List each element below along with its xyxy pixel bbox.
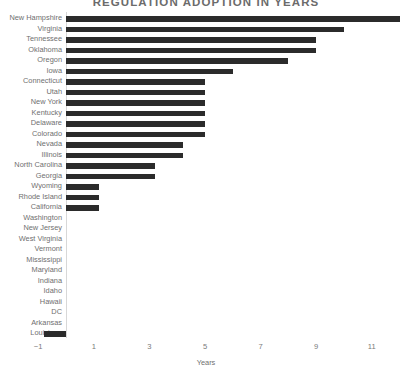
bar-category-label: Virginia bbox=[0, 24, 62, 33]
x-axis-label: Years bbox=[0, 358, 412, 367]
bar bbox=[66, 79, 205, 85]
bar-row: DC bbox=[0, 306, 412, 317]
bar-row: Virginia bbox=[0, 23, 412, 34]
bar-row: New York bbox=[0, 96, 412, 107]
bar-category-label: Hawaii bbox=[0, 297, 62, 306]
bar-category-label: Kentucky bbox=[0, 108, 62, 117]
bar bbox=[66, 27, 344, 33]
bar-category-label: Colorado bbox=[0, 129, 62, 138]
bar bbox=[66, 48, 316, 54]
bar-row: Tennessee bbox=[0, 33, 412, 44]
bar bbox=[66, 90, 205, 96]
bar-category-label: West Virginia bbox=[0, 234, 62, 243]
bar-category-label: Washington bbox=[0, 213, 62, 222]
bar-row: Mississippi bbox=[0, 254, 412, 265]
bar-row: Wyoming bbox=[0, 180, 412, 191]
bar bbox=[66, 100, 205, 106]
bar-row: Oklahoma bbox=[0, 44, 412, 55]
bar-row: Maryland bbox=[0, 264, 412, 275]
bar bbox=[66, 163, 155, 169]
bar-category-label: Indiana bbox=[0, 276, 62, 285]
bar-category-label: Iowa bbox=[0, 66, 62, 75]
bar-row: Hawaii bbox=[0, 296, 412, 307]
bar-row: Kentucky bbox=[0, 107, 412, 118]
bar-row: Louisiana bbox=[0, 327, 412, 338]
bar-category-label: Mississippi bbox=[0, 255, 62, 264]
bar-category-label: Utah bbox=[0, 87, 62, 96]
bar-category-label: Oregon bbox=[0, 55, 62, 64]
bar-category-label: Illinois bbox=[0, 150, 62, 159]
bar bbox=[66, 37, 316, 43]
bar bbox=[66, 69, 233, 75]
bar bbox=[66, 205, 99, 211]
bar bbox=[66, 111, 205, 117]
bar bbox=[66, 195, 99, 201]
bar-category-label: Oklahoma bbox=[0, 45, 62, 54]
bar-category-label: Nevada bbox=[0, 139, 62, 148]
bar-row: Georgia bbox=[0, 170, 412, 181]
bar-category-label: New York bbox=[0, 97, 62, 106]
bar bbox=[66, 142, 183, 148]
bar-row: Rhode Island bbox=[0, 191, 412, 202]
bar bbox=[66, 132, 205, 138]
bar-category-label: Delaware bbox=[0, 118, 62, 127]
bar bbox=[66, 58, 288, 64]
bar-row: Delaware bbox=[0, 117, 412, 128]
bar-category-label: Tennessee bbox=[0, 34, 62, 43]
bar-category-label: Maryland bbox=[0, 265, 62, 274]
bar-row: Arkansas bbox=[0, 317, 412, 328]
bar-category-label: Vermont bbox=[0, 244, 62, 253]
bar-row: Washington bbox=[0, 212, 412, 223]
bar bbox=[66, 184, 99, 190]
bar-row: Utah bbox=[0, 86, 412, 97]
bar-row: West Virginia bbox=[0, 233, 412, 244]
x-axis-tick-label: 9 bbox=[296, 342, 336, 351]
bar-row: New Jersey bbox=[0, 222, 412, 233]
bar-row: California bbox=[0, 201, 412, 212]
bar-category-label: Connecticut bbox=[0, 76, 62, 85]
bar bbox=[66, 153, 183, 159]
x-axis-tick-label: 1 bbox=[74, 342, 114, 351]
bar-category-label: North Carolina bbox=[0, 160, 62, 169]
bar bbox=[66, 121, 205, 127]
bar-category-label: Idaho bbox=[0, 286, 62, 295]
bar-category-label: California bbox=[0, 202, 62, 211]
x-axis-tick-label: 11 bbox=[352, 342, 392, 351]
bar-category-label: DC bbox=[0, 307, 62, 316]
chart-title: REGULATION ADOPTION IN YEARS bbox=[0, 0, 412, 8]
bar-row: Colorado bbox=[0, 128, 412, 139]
bar-category-label: Arkansas bbox=[0, 318, 62, 327]
bar-row: Iowa bbox=[0, 65, 412, 76]
bar-row: New Hampshire bbox=[0, 12, 412, 23]
x-axis: Years −11357911 bbox=[0, 338, 412, 380]
bar bbox=[66, 174, 155, 180]
bar-category-label: Georgia bbox=[0, 171, 62, 180]
bar bbox=[44, 331, 66, 337]
x-axis-tick-label: 7 bbox=[241, 342, 281, 351]
bar-row: Oregon bbox=[0, 54, 412, 65]
x-axis-tick-label: −1 bbox=[18, 342, 58, 351]
bar-category-label: New Jersey bbox=[0, 223, 62, 232]
bar-category-label: Rhode Island bbox=[0, 192, 62, 201]
bar-row: Vermont bbox=[0, 243, 412, 254]
bar-row: Connecticut bbox=[0, 75, 412, 86]
bar-category-label: Wyoming bbox=[0, 181, 62, 190]
bar bbox=[66, 16, 400, 22]
bar-row: North Carolina bbox=[0, 159, 412, 170]
x-axis-tick-label: 3 bbox=[129, 342, 169, 351]
bar-row: Illinois bbox=[0, 149, 412, 160]
bar-row: Indiana bbox=[0, 275, 412, 286]
bar-chart: REGULATION ADOPTION IN YEARS New Hampshi… bbox=[0, 0, 412, 380]
bar-category-label: New Hampshire bbox=[0, 13, 62, 22]
bar-row: Idaho bbox=[0, 285, 412, 296]
bar-row: Nevada bbox=[0, 138, 412, 149]
plot-area: New HampshireVirginiaTennesseeOklahomaOr… bbox=[0, 12, 412, 338]
x-axis-tick-label: 5 bbox=[185, 342, 225, 351]
